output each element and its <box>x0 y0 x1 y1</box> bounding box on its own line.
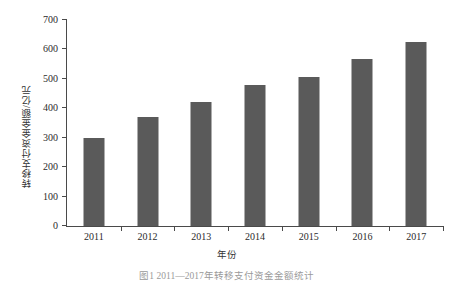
x-axis-tick-label: 2014 <box>245 232 265 242</box>
x-axis-tick <box>389 226 390 231</box>
x-axis-tick-label: 2012 <box>138 232 158 242</box>
x-axis-title: 年份 <box>0 251 453 261</box>
bar <box>137 117 158 226</box>
bar <box>298 77 319 226</box>
y-axis-tick-label: 0 <box>53 221 58 231</box>
y-axis-title: 转移支付资金金额/亿元 <box>20 62 36 212</box>
y-axis-tick-label: 200 <box>43 162 58 172</box>
y-axis-tick-label: 700 <box>43 15 58 25</box>
x-axis-tick <box>228 226 229 231</box>
x-axis-tick-label: 2016 <box>352 232 372 242</box>
x-axis-tick-label: 2017 <box>406 232 426 242</box>
bar <box>191 102 212 226</box>
x-axis-tick <box>121 226 122 231</box>
y-axis-tick-label: 300 <box>43 133 58 143</box>
x-axis-tick <box>282 226 283 231</box>
x-axis-tick <box>336 226 337 231</box>
bar <box>245 85 266 226</box>
bar-series <box>67 20 443 226</box>
x-axis-tick <box>174 226 175 231</box>
figure-caption: 图1 2011—2017年转移支付资金金额统计 <box>0 271 453 282</box>
y-axis-tick-label: 400 <box>43 103 58 113</box>
y-axis-tick-label: 100 <box>43 192 58 202</box>
y-axis-tick-label: 500 <box>43 74 58 84</box>
bar <box>406 42 427 226</box>
x-axis-tick <box>443 226 444 231</box>
x-axis-tick-label: 2015 <box>299 232 319 242</box>
bar <box>83 138 104 226</box>
y-axis-tick-label: 600 <box>43 44 58 54</box>
x-axis-tick-label: 2013 <box>191 232 211 242</box>
bar <box>352 59 373 226</box>
x-axis-tick-label: 2011 <box>84 232 104 242</box>
plot-area: 0100200300400500600700 20112012201320142… <box>66 20 443 227</box>
